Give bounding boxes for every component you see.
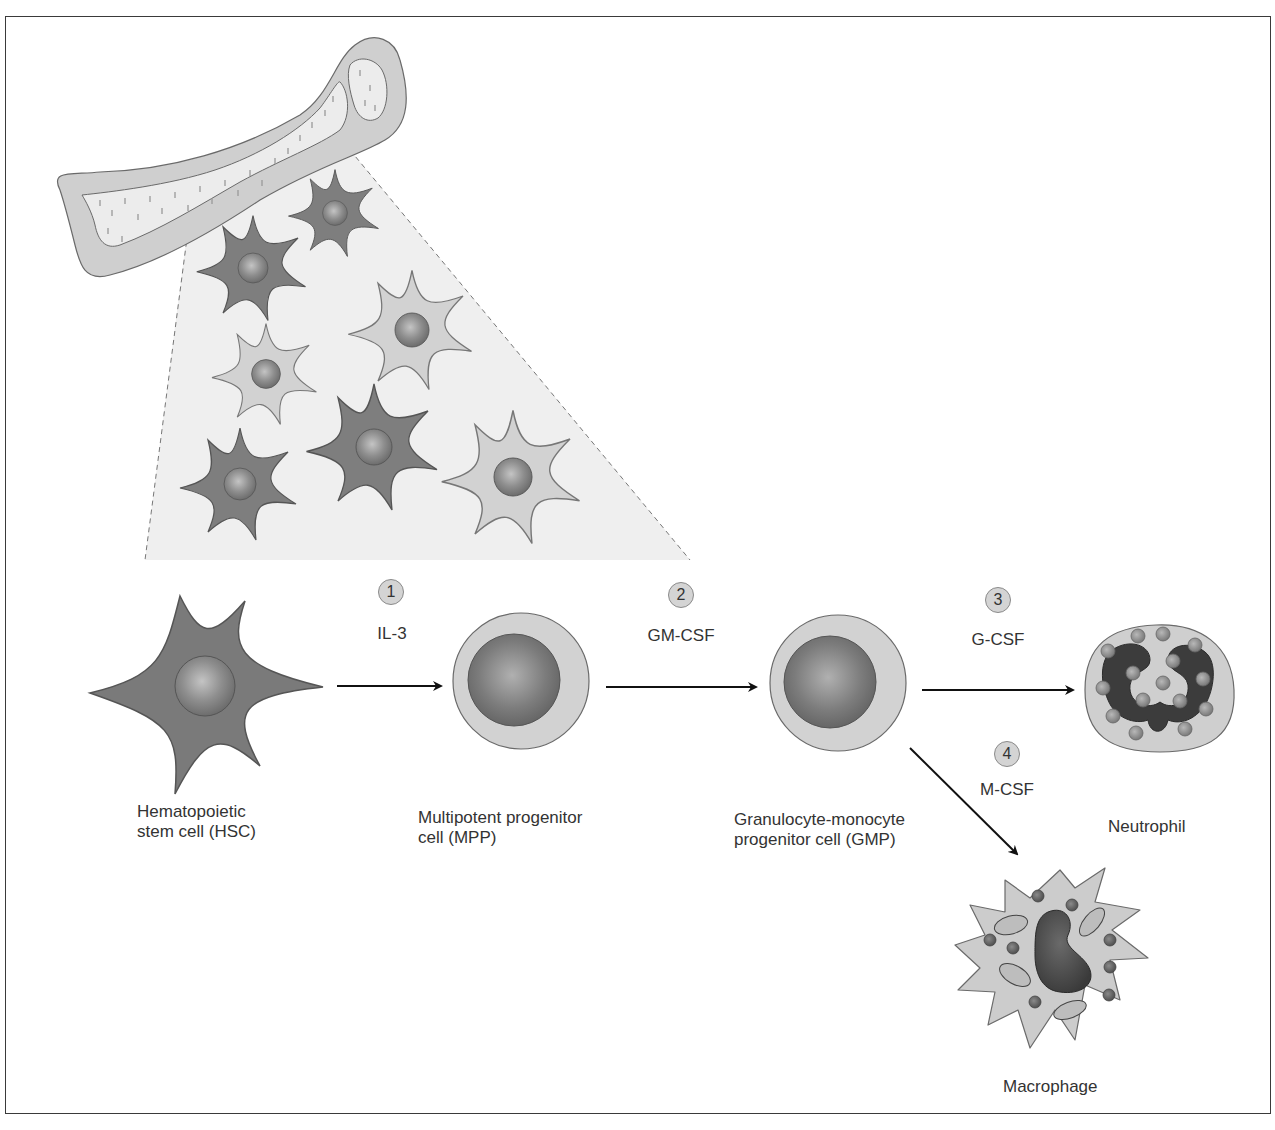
diagram-canvas	[0, 0, 1275, 1130]
step-1-badge: 1	[378, 579, 404, 605]
label-macrophage: Macrophage	[1003, 1077, 1098, 1097]
mpp-cell	[453, 613, 589, 749]
macrophage-cell	[955, 868, 1148, 1048]
factor-label-il3: IL-3	[364, 624, 420, 644]
hsc-cell	[90, 596, 323, 794]
gmp-cell	[770, 615, 906, 751]
label-hsc: Hematopoietic stem cell (HSC)	[137, 802, 256, 842]
label-mpp: Multipotent progenitor cell (MPP)	[418, 808, 582, 848]
factor-label-gm-csf: GM-CSF	[641, 626, 721, 646]
label-neutrophil: Neutrophil	[1108, 817, 1186, 837]
step-4-badge: 4	[994, 741, 1020, 767]
factor-label-m-csf: M-CSF	[973, 780, 1041, 800]
step-3-badge: 3	[985, 587, 1011, 613]
step-2-badge: 2	[668, 582, 694, 608]
label-gmp: Granulocyte-monocyte progenitor cell (GM…	[734, 810, 905, 850]
factor-label-g-csf: G-CSF	[966, 630, 1030, 650]
neutrophil-cell	[1085, 625, 1234, 752]
